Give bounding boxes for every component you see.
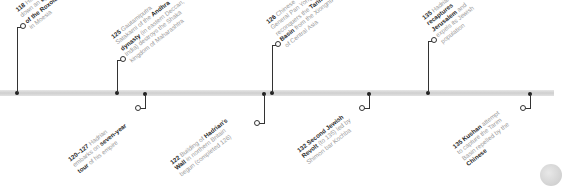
page-curl-corner (540, 164, 562, 186)
stem (272, 45, 273, 93)
stem (369, 94, 370, 109)
stem (530, 94, 531, 109)
stem (17, 27, 18, 93)
ring-icon (275, 41, 281, 47)
timeline-axis (0, 90, 554, 96)
ring-icon (520, 105, 526, 111)
ring-icon (135, 105, 141, 111)
stem (145, 94, 146, 109)
stem (264, 94, 265, 124)
stem (428, 41, 429, 93)
ring-icon (254, 120, 260, 126)
event-label-line: Wall in northern Britain (173, 122, 233, 171)
event-label: 135 Kushan attemptto capture the TarimBa… (451, 109, 515, 168)
ring-icon (359, 105, 365, 111)
ring-icon (20, 23, 26, 29)
ring-icon (431, 37, 437, 43)
ring-icon (120, 56, 126, 62)
event-label: 125 GautamiputraSatakarni of the Andhrad… (110, 0, 195, 64)
event-label: 135 HadrianrecapturesJerusalem andexpels… (421, 0, 480, 45)
event-label: 120–127 Hadrianembarks on seven-yeartour… (67, 116, 133, 174)
event-label: 132 Second JewishRevolt (to 135) led byS… (296, 111, 357, 166)
stem (117, 60, 118, 93)
event-label: 122 Building of Hadrian'sWall in norther… (169, 117, 238, 178)
